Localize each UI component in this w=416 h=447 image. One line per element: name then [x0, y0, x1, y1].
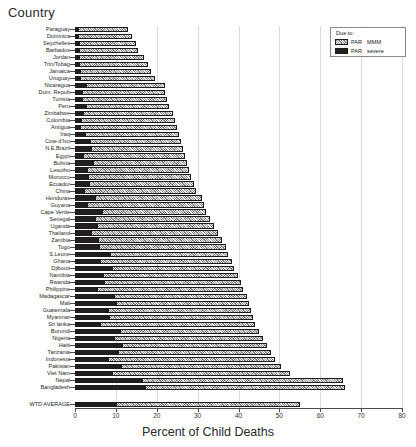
bar-segment-par-severe — [75, 90, 82, 95]
y-axis-label: Peru — [0, 103, 70, 109]
bar-segment-par-severe — [75, 273, 103, 278]
bar-segment-par-severe — [75, 118, 81, 123]
y-axis-label: Lesotho — [0, 167, 70, 173]
bar-segment-par-severe — [75, 188, 84, 193]
bar-segment-par-mmm — [78, 34, 132, 39]
bar-segment-par-severe — [75, 315, 109, 320]
bar-segment-par-severe — [75, 216, 95, 221]
bar-segment-par-severe — [75, 125, 80, 130]
bar-segment-par-severe — [75, 223, 97, 228]
y-axis-label: Zambia — [0, 237, 70, 243]
y-axis-label: Seychelles — [0, 40, 70, 46]
legend-label-par-severe-right: severe — [367, 48, 384, 54]
y-axis-label: Cote d'Ivo — [0, 138, 70, 144]
bar-segment-par-severe — [75, 76, 80, 81]
bar-segment-par-severe — [75, 252, 110, 257]
bar-segment-par-mmm — [89, 181, 194, 186]
y-axis-label: Jordan — [0, 54, 70, 60]
legend-label-par-mmm-right: MMM — [367, 39, 381, 45]
bar-segment-par-mmm — [88, 174, 191, 179]
bar-segment-par-mmm — [79, 55, 144, 60]
bar-segment-par-severe — [75, 287, 97, 292]
bar-segment-par-mmm — [108, 357, 276, 362]
x-axis-tick-label: 80 — [398, 412, 405, 419]
bar-segment-par-mmm — [83, 153, 185, 158]
bar-segment-par-severe — [75, 237, 98, 242]
y-axis-label: Burundi — [0, 328, 70, 334]
bar-segment-par-severe — [75, 385, 145, 390]
legend-swatch-par-severe-icon — [335, 48, 348, 54]
bar-segment-par-severe — [75, 364, 121, 369]
y-axis-label: Nigeria — [0, 335, 70, 341]
y-axis-label: Nicaragua — [0, 82, 70, 88]
bar-segment-par-severe — [75, 83, 86, 88]
bar-segment-par-severe — [75, 280, 104, 285]
bar-segment-par-severe — [75, 139, 90, 144]
bar-segment-par-severe — [75, 209, 102, 214]
y-axis-label: Trin/Tobag — [0, 61, 70, 67]
bar-segment-par-severe — [75, 97, 82, 102]
legend-swatch-par-mmm-icon — [335, 39, 348, 45]
bar-segment-par-mmm — [95, 216, 209, 221]
y-axis-label: Nepal — [0, 377, 70, 383]
bar-segment-par-mmm — [114, 336, 263, 341]
y-axis-label: Guyana — [0, 202, 70, 208]
y-axis-label: Tanzania — [0, 349, 70, 355]
bar-segment-par-severe — [75, 48, 79, 53]
gridline — [361, 26, 362, 408]
bar-segment-par-severe — [75, 329, 120, 334]
y-axis-label: Indonesia — [0, 356, 70, 362]
bar-segment-par-mmm — [116, 402, 300, 407]
bar-segment-par-mmm — [90, 139, 182, 144]
legend-label-par-severe-left: PAR — [351, 48, 362, 54]
bar-segment-par-mmm — [109, 315, 252, 320]
y-axis-label: Madagascar — [0, 293, 70, 299]
bar-segment-par-mmm — [91, 146, 184, 151]
bar-segment-par-severe — [75, 336, 114, 341]
y-axis-label: N.E.Brazil — [0, 145, 70, 151]
y-axis-label: Bolivia — [0, 160, 70, 166]
y-axis-label: Uganda — [0, 223, 70, 229]
bar-segment-par-severe — [75, 371, 112, 376]
bar-segment-par-severe — [75, 132, 85, 137]
bar-segment-par-severe — [75, 34, 78, 39]
y-axis-label: Tunisia — [0, 96, 70, 102]
bar-segment-par-severe — [75, 357, 108, 362]
bar-segment-par-mmm — [112, 371, 290, 376]
bar-segment-par-mmm — [142, 378, 342, 383]
bar-segment-par-mmm — [79, 41, 137, 46]
bar-segment-par-mmm — [122, 343, 267, 348]
y-axis-label: Myanmar — [0, 314, 70, 320]
x-axis-tick-label: 40 — [235, 412, 242, 419]
bar-segment-par-severe — [75, 160, 93, 165]
bar-segment-par-severe — [75, 174, 88, 179]
bar-segment-par-mmm — [80, 76, 154, 81]
bar-segment-par-mmm — [114, 294, 247, 299]
bar-segment-par-severe — [75, 181, 89, 186]
bar-segment-par-mmm — [104, 280, 241, 285]
y-axis-label: Zimbabwe — [0, 110, 70, 116]
legend: Due to: PAR MMM PAR severe — [330, 27, 406, 57]
bar-segment-par-mmm — [112, 266, 235, 271]
bar-segment-par-mmm — [79, 62, 148, 67]
bar-segment-par-severe — [75, 301, 116, 306]
bar-segment-par-mmm — [87, 202, 203, 207]
bar-segment-par-mmm — [100, 259, 232, 264]
bar-segment-par-mmm — [102, 209, 206, 214]
gridline — [402, 26, 403, 408]
bar-segment-par-mmm — [100, 322, 255, 327]
bar-segment-par-severe — [75, 41, 79, 46]
y-axis-label: Guatemala — [0, 307, 70, 313]
bar-segment-par-mmm — [99, 244, 226, 249]
bar-segment-par-severe — [75, 69, 80, 74]
x-axis-tick-label: 60 — [317, 412, 324, 419]
bar-segment-par-severe — [75, 167, 87, 172]
gridline — [320, 26, 321, 408]
y-axis-label: Dominica — [0, 33, 70, 39]
legend-item-par-mmm: PAR MMM — [335, 38, 402, 46]
bar-segment-par-mmm — [121, 364, 281, 369]
y-axis-label: Jamaica — [0, 68, 70, 74]
y-axis-label: Cape Verde — [0, 209, 70, 215]
bar-segment-par-mmm — [93, 160, 187, 165]
bar-segment-par-mmm — [79, 48, 139, 53]
